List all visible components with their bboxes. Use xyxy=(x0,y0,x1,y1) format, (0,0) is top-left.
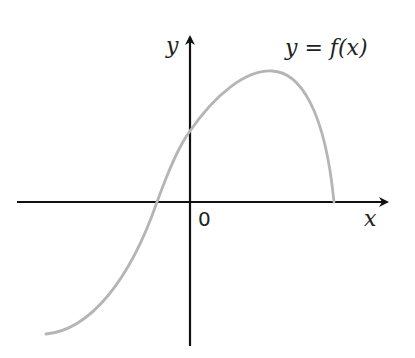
origin-label: 0 xyxy=(198,207,211,231)
x-axis-label: x xyxy=(364,206,377,231)
y-axis-label: y xyxy=(165,33,179,58)
function-graph: y x 0 y = f(x) xyxy=(0,0,415,358)
curve-label: y = f(x) xyxy=(284,35,368,60)
